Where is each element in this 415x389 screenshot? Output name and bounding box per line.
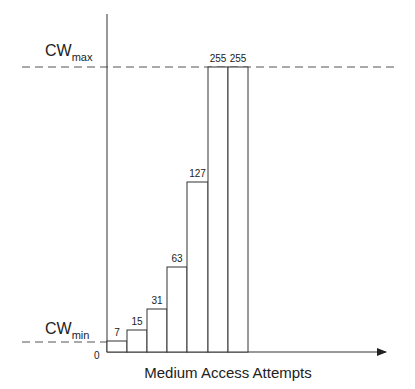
bar-value-label: 255 <box>210 53 227 64</box>
bar-1 <box>107 341 127 352</box>
bar-7 <box>228 67 248 352</box>
bar-5 <box>187 182 208 352</box>
bar-value-label: 63 <box>171 253 183 264</box>
chart-canvas: 7153163127255255 CWmax CWmin 0 Medium Ac… <box>0 0 415 389</box>
bar-2 <box>127 330 147 352</box>
bar-4 <box>167 267 187 352</box>
bar-value-label: 127 <box>189 168 206 179</box>
bar-value-label: 15 <box>131 316 143 327</box>
bar-group <box>107 67 248 352</box>
bar-6 <box>208 67 228 352</box>
x-axis-label: Medium Access Attempts <box>144 364 312 381</box>
bar-value-label: 31 <box>151 295 163 306</box>
cw-max-label: CWmax <box>45 42 93 63</box>
bar-3 <box>147 309 167 352</box>
origin-label: 0 <box>94 350 100 361</box>
cw-min-label: CWmin <box>45 320 89 341</box>
bar-value-label: 7 <box>114 327 120 338</box>
bar-value-label: 255 <box>230 53 247 64</box>
